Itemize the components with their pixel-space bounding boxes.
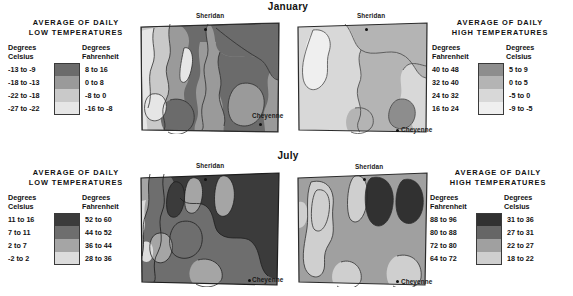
legend-row: -18 to -13 0 to 8: [8, 76, 144, 89]
legend-row: 11 to 16 52 to 60: [8, 213, 144, 226]
city-label-cheyenne: Cheyenne: [252, 276, 283, 283]
legend-swatch: [54, 252, 80, 265]
legend-cell-left: -18 to -13: [8, 76, 54, 89]
city-label-cheyenne: Cheyenne: [401, 278, 432, 285]
legend-cell-right: 0 to 5: [504, 76, 555, 89]
legend-header-row: Degrees Celsius Degrees Fahrenheit: [8, 194, 144, 211]
legend-cell-right: 44 to 52: [80, 226, 131, 239]
legend-row: 72 to 80 22 to 27: [430, 239, 566, 252]
city-dot-sheridan: [363, 178, 366, 181]
legend-row: 64 to 72 18 to 22: [430, 252, 566, 265]
map-july-low: Sheridan Cheyenne: [140, 172, 280, 287]
legend-swatch: [54, 76, 80, 89]
map-canvas: [297, 172, 428, 287]
legend-cell-left: 80 to 88: [430, 226, 476, 239]
legend-swatch: [54, 213, 80, 226]
legend-col1-header: Degrees Celsius: [8, 194, 54, 211]
legend-cell-right: 8 to 16: [80, 63, 131, 76]
legend-swatch: [476, 252, 502, 265]
legend-cell-left: 40 to 48: [432, 63, 478, 76]
legend-row: 80 to 88 27 to 31: [430, 226, 566, 239]
legend-cell-left: 7 to 11: [8, 226, 54, 239]
legend-cell-right: 27 to 31: [502, 226, 553, 239]
legend-cell-left: 64 to 72: [430, 252, 476, 265]
legend-july-high: AVERAGE OF DAILY HIGH TEMPERATURES Degre…: [430, 168, 566, 265]
legend-cell-left: 24 to 32: [432, 89, 478, 102]
legend-swatch: [476, 213, 502, 226]
legend-row: -13 to -9 8 to 16: [8, 63, 144, 76]
city-dot-cheyenne: [259, 123, 262, 126]
legend-row: 24 to 32 -5 to 0: [432, 89, 568, 102]
legend-cell-left: 32 to 40: [432, 76, 478, 89]
legend-row: -27 to -22 -16 to -8: [8, 102, 144, 115]
legend-rows: -13 to -9 8 to 16 -18 to -13 0 to 8 -22 …: [8, 63, 144, 115]
city-dot-sheridan: [365, 28, 368, 31]
legend-header-spacer: [54, 194, 82, 211]
legend-cell-left: -13 to -9: [8, 63, 54, 76]
legend-rows: 88 to 96 31 to 36 80 to 88 27 to 31 72 t…: [430, 213, 566, 265]
legend-row: 88 to 96 31 to 36: [430, 213, 566, 226]
legend-cell-right: 5 to 9: [504, 63, 555, 76]
legend-col2-header: Degrees Fahrenheit: [82, 44, 128, 61]
map-january-high: Sheridan Cheyenne: [297, 22, 428, 134]
legend-cell-right: 18 to 22: [502, 252, 553, 265]
legend-cell-right: -8 to 0: [80, 89, 131, 102]
legend-swatch: [54, 239, 80, 252]
legend-swatch: [54, 102, 80, 115]
legend-january-low: AVERAGE OF DAILY LOW TEMPERATURES Degree…: [8, 18, 144, 115]
legend-cell-right: -16 to -8: [80, 102, 131, 115]
legend-header-row: Degrees Fahrenheit Degrees Celsius: [430, 194, 566, 211]
legend-cell-right: 28 to 36: [80, 252, 131, 265]
legend-swatch: [478, 102, 504, 115]
legend-cell-left: -22 to -18: [8, 89, 54, 102]
legend-title: AVERAGE OF DAILY HIGH TEMPERATURES: [432, 18, 568, 37]
legend-swatch: [54, 63, 80, 76]
city-dot-cheyenne: [248, 279, 251, 282]
legend-rows: 40 to 48 5 to 9 32 to 40 0 to 5 24 to 32…: [432, 63, 568, 115]
legend-cell-right: 31 to 36: [502, 213, 553, 226]
legend-header-spacer: [478, 44, 506, 61]
legend-cell-right: 22 to 27: [502, 239, 553, 252]
city-label-cheyenne: Cheyenne: [252, 112, 283, 119]
map-canvas: [140, 172, 280, 287]
legend-row: 7 to 11 44 to 52: [8, 226, 144, 239]
city-dot-sheridan: [204, 28, 207, 31]
legend-cell-left: 16 to 24: [432, 102, 478, 115]
legend-swatch: [54, 226, 80, 239]
legend-rows: 11 to 16 52 to 60 7 to 11 44 to 52 2 to …: [8, 213, 144, 265]
legend-col1-header: Degrees Fahrenheit: [430, 194, 476, 211]
legend-swatch: [476, 226, 502, 239]
legend-swatch: [478, 76, 504, 89]
city-label-sheridan: Sheridan: [196, 162, 224, 169]
legend-cell-right: 52 to 60: [80, 213, 131, 226]
city-dot-cheyenne: [396, 280, 399, 283]
map-canvas: [297, 22, 428, 134]
legend-cell-left: -27 to -22: [8, 102, 54, 115]
legend-header-spacer: [54, 44, 82, 61]
city-dot-cheyenne: [396, 129, 399, 132]
legend-swatch: [54, 89, 80, 102]
legend-title: AVERAGE OF DAILY LOW TEMPERATURES: [8, 168, 144, 187]
legend-cell-left: 11 to 16: [8, 213, 54, 226]
city-label-sheridan: Sheridan: [196, 12, 224, 19]
legend-row: -2 to 2 28 to 36: [8, 252, 144, 265]
legend-cell-left: 72 to 80: [430, 239, 476, 252]
legend-row: 32 to 40 0 to 5: [432, 76, 568, 89]
legend-col1-header: Degrees Fahrenheit: [432, 44, 478, 61]
legend-title: AVERAGE OF DAILY LOW TEMPERATURES: [8, 18, 144, 37]
legend-header-row: Degrees Celsius Degrees Fahrenheit: [8, 44, 144, 61]
season-title-january: January: [228, 1, 348, 12]
map-july-high: Sheridan Cheyenne: [297, 172, 428, 287]
legend-cell-left: 88 to 96: [430, 213, 476, 226]
legend-cell-left: -2 to 2: [8, 252, 54, 265]
map-january-low: Sheridan Cheyenne: [140, 22, 280, 134]
legend-swatch: [478, 63, 504, 76]
legend-col2-header: Degrees Celsius: [506, 44, 552, 61]
city-dot-sheridan: [204, 178, 207, 181]
legend-swatch: [478, 89, 504, 102]
city-label-cheyenne: Cheyenne: [401, 126, 432, 133]
legend-col1-header: Degrees Celsius: [8, 44, 54, 61]
legend-header-row: Degrees Fahrenheit Degrees Celsius: [432, 44, 568, 61]
legend-col2-header: Degrees Celsius: [504, 194, 550, 211]
legend-row: -22 to -18 -8 to 0: [8, 89, 144, 102]
